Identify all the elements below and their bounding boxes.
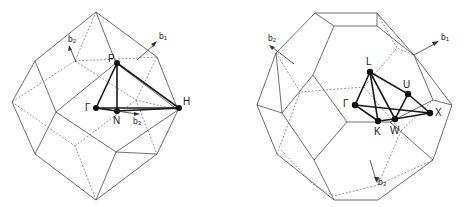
label-w: W [390, 126, 399, 136]
label-gamma: Γ [343, 99, 349, 109]
label-k: K [374, 127, 381, 137]
point-k [375, 118, 381, 124]
label-u: U [403, 80, 410, 90]
label-gamma: Γ [85, 103, 91, 113]
brillouin-zones-diagram [0, 0, 466, 207]
label-b1: b1 [159, 32, 167, 41]
fcc-irreducible-wedge [352, 69, 433, 124]
label-b2: b2 [68, 35, 76, 44]
label-b3: b3 [133, 117, 141, 126]
point-x [427, 110, 433, 116]
point-gamma [93, 105, 99, 111]
point-l [367, 69, 373, 75]
label-h: H [183, 97, 190, 107]
point-u [405, 91, 411, 97]
label-p: P [108, 54, 115, 64]
label-x: X [435, 108, 442, 118]
label-l: L [366, 57, 372, 67]
point-w [392, 116, 398, 122]
label-b1: b1 [441, 33, 449, 42]
label-b3: b3 [378, 178, 386, 187]
label-b2: b2 [268, 34, 276, 43]
point-h [176, 105, 182, 111]
point-gamma [352, 102, 358, 108]
label-n: N [113, 116, 120, 126]
